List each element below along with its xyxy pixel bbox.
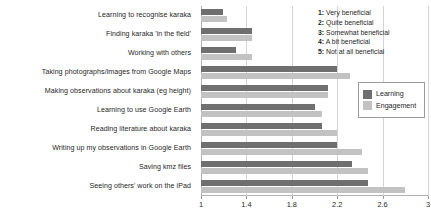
bar-learning: [201, 28, 252, 34]
legend-entry: Learning: [363, 90, 420, 99]
category-axis: Learning to recognise karakaFinding kara…: [0, 6, 196, 196]
scale-key-text: Quite beneficial: [326, 19, 374, 26]
bar-engagement: [201, 54, 252, 60]
scale-key: 1: Very beneficial2: Quite beneficial3: …: [318, 8, 428, 57]
category-label: Saving kmz files: [0, 158, 196, 177]
bar-learning: [201, 161, 352, 167]
scale-key-text: A bit beneficial: [326, 38, 370, 45]
bar-group: [201, 177, 428, 196]
bar-learning: [201, 85, 328, 91]
category-label: Finding karaka 'in the field': [0, 25, 196, 44]
x-tick-label: 1.8: [287, 200, 297, 209]
scale-key-text: Somewhat beneficial: [326, 29, 390, 36]
category-label: Seeing others' work on the iPad: [0, 177, 196, 196]
category-label: Taking photographs/images from Google Ma…: [0, 63, 196, 82]
scale-key-number: 1:: [318, 9, 324, 16]
scale-key-item: 2: Quite beneficial: [318, 18, 428, 28]
bar-engagement: [201, 111, 322, 117]
bar-learning: [201, 180, 368, 186]
series-legend: LearningEngagement: [358, 82, 425, 118]
x-tick-label: 3: [426, 200, 430, 209]
bar-group: [201, 120, 428, 139]
scale-key-item: 5: Not at all beneficial: [318, 47, 428, 57]
x-tick-label: 2.6: [377, 200, 387, 209]
category-label: Learning to recognise karaka: [0, 6, 196, 25]
category-label: Making observations about karaka (eg hei…: [0, 82, 196, 101]
bar-group: [201, 139, 428, 158]
bar-learning: [201, 66, 337, 72]
x-tick-mark: [201, 196, 202, 199]
bar-learning: [201, 104, 315, 110]
bar-engagement: [201, 35, 252, 41]
category-label: Writing up my observations in Google Ear…: [0, 139, 196, 158]
bar-engagement: [201, 73, 350, 79]
x-tick-mark: [292, 196, 293, 199]
bar-engagement: [201, 92, 328, 98]
legend-label: Learning: [376, 90, 404, 98]
scale-key-item: 1: Very beneficial: [318, 8, 428, 18]
bar-learning: [201, 123, 322, 129]
bar-engagement: [201, 16, 227, 22]
bar-engagement: [201, 149, 362, 155]
bar-learning: [201, 142, 337, 148]
x-tick-mark: [383, 196, 384, 199]
category-label: Learning to use Google Earth: [0, 101, 196, 120]
bar-engagement: [201, 187, 405, 193]
x-axis: 11.41.82.22.63: [201, 196, 428, 216]
horizontal-bar-chart: Learning to recognise karakaFinding kara…: [0, 0, 431, 224]
legend-label: Engagement: [376, 102, 416, 110]
scale-key-number: 3:: [318, 29, 324, 36]
bar-group: [201, 158, 428, 177]
legend-entry: Engagement: [363, 101, 420, 110]
bar-engagement: [201, 168, 368, 174]
category-label: Reading literature about karaka: [0, 120, 196, 139]
x-tick-label: 1.4: [241, 200, 251, 209]
legend-swatch-icon: [363, 101, 372, 110]
legend-swatch-icon: [363, 90, 372, 99]
bar-group: [201, 63, 428, 82]
bar-learning: [201, 9, 223, 15]
x-tick-label: 2.2: [332, 200, 342, 209]
bar-engagement: [201, 130, 337, 136]
scale-key-item: 3: Somewhat beneficial: [318, 28, 428, 38]
scale-key-number: 5:: [318, 48, 324, 55]
scale-key-number: 2:: [318, 19, 324, 26]
scale-key-text: Not at all beneficial: [326, 48, 384, 55]
x-tick-mark: [246, 196, 247, 199]
gridline: [428, 6, 429, 196]
x-tick-mark: [428, 196, 429, 199]
scale-key-item: 4: A bit beneficial: [318, 37, 428, 47]
bar-learning: [201, 47, 236, 53]
x-tick-mark: [337, 196, 338, 199]
category-label: Working with others: [0, 44, 196, 63]
x-tick-label: 1: [199, 200, 203, 209]
scale-key-text: Very beneficial: [326, 9, 371, 16]
scale-key-number: 4:: [318, 38, 324, 45]
